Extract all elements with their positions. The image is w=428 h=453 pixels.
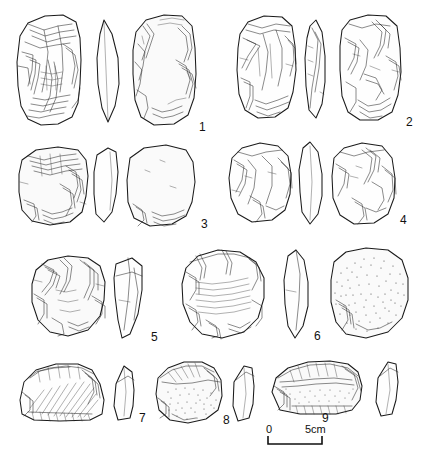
artefact-6-number: 6 [314, 329, 321, 343]
artefact-4: 4 [229, 142, 407, 227]
artefact-3-dorsal-view [19, 147, 88, 225]
artefact-2-ventral-view [340, 15, 401, 120]
scale-zero-label: 0 [266, 423, 272, 435]
artefact-3-ventral-view [127, 145, 195, 226]
artefact-1-ventral-view [133, 15, 196, 125]
artefact-5-number: 5 [151, 330, 158, 344]
artefact-3-number: 3 [201, 217, 208, 231]
artefact-2-number: 2 [406, 115, 413, 129]
artefact-7: 7 [20, 364, 146, 425]
artefact-4-dorsal-view [229, 143, 292, 222]
artefact-1-dorsal-view [17, 15, 81, 125]
artefact-2-profile-view [305, 20, 325, 118]
artefact-6: 6 [182, 248, 408, 343]
scale-max-label: 5cm [305, 423, 326, 435]
artefact-2-dorsal-view [237, 16, 296, 118]
artefact-8-number: 8 [223, 413, 230, 427]
artefact-4-number: 4 [400, 213, 407, 227]
artefact-1-number: 1 [199, 120, 206, 134]
artefact-4-ventral-view [332, 143, 396, 224]
artefact-7-number: 7 [139, 411, 146, 425]
artefact-8-dorsal-view [156, 362, 222, 423]
artefact-4-profile-view [299, 142, 322, 224]
lithic-plate-figure: 1 [0, 0, 428, 453]
